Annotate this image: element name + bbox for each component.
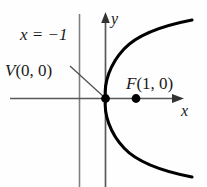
- parabola-figure: x = −1 V(0, 0) F(1, 0) x y: [0, 0, 207, 187]
- focus-label-name: F: [126, 74, 136, 93]
- vertex-label: V(0, 0): [5, 62, 52, 79]
- x-axis-label: x: [181, 103, 188, 119]
- focus-label: F(1, 0): [126, 75, 173, 92]
- vertex-point: [101, 94, 110, 103]
- y-axis-arrowhead: [101, 12, 110, 23]
- parabola-lower-branch: [105, 99, 192, 178]
- directrix-label: x = −1: [20, 26, 68, 43]
- y-axis-label: y: [111, 11, 118, 27]
- focus-label-coords: (1, 0): [136, 74, 173, 93]
- vertex-leader-line: [70, 66, 104, 97]
- vertex-label-coords: (0, 0): [15, 61, 52, 80]
- focus-point: [132, 94, 141, 103]
- vertex-label-name: V: [5, 61, 15, 80]
